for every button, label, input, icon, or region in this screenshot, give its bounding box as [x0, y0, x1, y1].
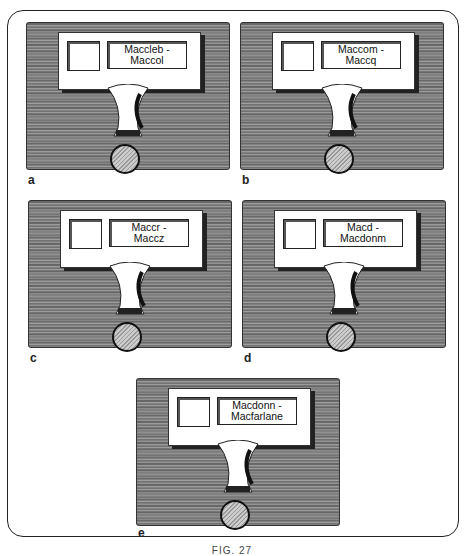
drawer-pull-icon	[320, 262, 368, 322]
label-line-2: Maccq	[322, 55, 400, 66]
blank-label-window	[281, 41, 314, 71]
drawer-pull-icon	[104, 84, 152, 144]
label-line-2: Macfarlane	[218, 411, 296, 422]
drawer-panel-d: Macd - Macdonm	[242, 200, 446, 348]
drawer-knob-icon	[326, 322, 356, 352]
label-holder: Maccom - Maccq	[272, 32, 415, 90]
label-window: Maccr - Maccz	[109, 219, 189, 247]
label-window: Maccleb - Maccol	[107, 41, 187, 69]
label-window: Maccom - Maccq	[321, 41, 401, 69]
label-line-2: Macdonm	[324, 233, 402, 244]
drawer-panel-e: Macdonn - Macfarlane	[136, 378, 340, 526]
blank-label-window	[69, 219, 102, 249]
drawer-panel-b: Maccom - Maccq	[240, 22, 444, 170]
label-holder: Maccleb - Maccol	[58, 32, 201, 90]
figure-caption: FIG. 27	[0, 545, 464, 556]
label-holder: Maccr - Maccz	[60, 210, 203, 268]
blank-label-window	[177, 397, 210, 427]
label-window: Macd - Macdonm	[323, 219, 403, 247]
panel-letter: b	[242, 173, 249, 187]
drawer-knob-icon	[220, 500, 250, 530]
drawer-knob-icon	[110, 144, 140, 174]
drawer-pull-icon	[214, 440, 262, 500]
panel-letter: a	[28, 173, 35, 187]
drawer-knob-icon	[324, 144, 354, 174]
drawer-pull-icon	[106, 262, 154, 322]
label-holder: Macdonn - Macfarlane	[168, 388, 311, 446]
blank-label-window	[283, 219, 316, 249]
drawer-pull-icon	[318, 84, 366, 144]
panel-letter: e	[138, 526, 145, 540]
label-window: Macdonn - Macfarlane	[217, 397, 297, 425]
label-line-2: Maccol	[108, 55, 186, 66]
drawer-panel-c: Maccr - Maccz	[28, 200, 232, 348]
drawer-panel-a: Maccleb - Maccol	[26, 22, 230, 170]
label-holder: Macd - Macdonm	[274, 210, 417, 268]
drawer-knob-icon	[112, 322, 142, 352]
panel-letter: d	[244, 351, 251, 365]
label-line-2: Maccz	[110, 233, 188, 244]
blank-label-window	[67, 41, 100, 71]
panel-letter: c	[30, 351, 37, 365]
